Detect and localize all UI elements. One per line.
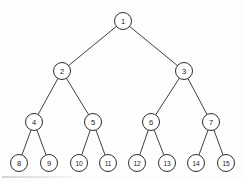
- node-circle-6[interactable]: [143, 114, 160, 131]
- node-circle-9[interactable]: [41, 155, 58, 172]
- node-circle-3[interactable]: [176, 63, 193, 80]
- node-circle-11[interactable]: [100, 155, 117, 172]
- tree-node-3[interactable]: 3: [176, 63, 193, 80]
- tree-edge: [140, 130, 149, 155]
- node-circle-7[interactable]: [203, 114, 220, 131]
- tree-edge: [214, 130, 223, 155]
- node-circle-14[interactable]: [188, 155, 205, 172]
- tree-edge: [96, 130, 105, 155]
- node-circle-8[interactable]: [11, 155, 28, 172]
- node-circle-2[interactable]: [54, 63, 71, 80]
- node-circle-12[interactable]: [129, 155, 146, 172]
- tree-edge: [82, 130, 91, 155]
- node-circle-1[interactable]: [115, 13, 132, 30]
- tree-edges-group: [22, 26, 223, 155]
- tree-edge: [66, 78, 88, 114]
- tree-node-10[interactable]: 10: [71, 155, 88, 172]
- tree-node-14[interactable]: 14: [188, 155, 205, 172]
- tree-node-7[interactable]: 7: [203, 114, 220, 131]
- binary-tree-figure: 123456789101112131415: [0, 0, 244, 181]
- tree-edge: [130, 26, 178, 65]
- tree-edge: [156, 78, 180, 115]
- tree-node-9[interactable]: 9: [41, 155, 58, 172]
- tree-edge: [37, 130, 46, 155]
- tree-node-4[interactable]: 4: [26, 114, 43, 131]
- tree-edge: [38, 78, 58, 114]
- tree-edge: [22, 130, 31, 155]
- tree-edge: [199, 130, 208, 155]
- tree-node-6[interactable]: 6: [143, 114, 160, 131]
- tree-edge: [154, 130, 164, 155]
- tree-nodes-group: 123456789101112131415: [11, 13, 235, 172]
- tree-node-13[interactable]: 13: [159, 155, 176, 172]
- tree-graph-canvas: 123456789101112131415: [0, 0, 244, 181]
- scan-artifact-line: [2, 176, 72, 178]
- node-circle-13[interactable]: [159, 155, 176, 172]
- tree-node-11[interactable]: 11: [100, 155, 117, 172]
- tree-node-2[interactable]: 2: [54, 63, 71, 80]
- node-circle-5[interactable]: [85, 114, 102, 131]
- tree-node-1[interactable]: 1: [115, 13, 132, 30]
- tree-edge: [188, 79, 207, 115]
- tree-node-8[interactable]: 8: [11, 155, 28, 172]
- node-circle-15[interactable]: [218, 155, 235, 172]
- tree-edge: [69, 26, 117, 65]
- tree-node-5[interactable]: 5: [85, 114, 102, 131]
- node-circle-4[interactable]: [26, 114, 43, 131]
- tree-node-12[interactable]: 12: [129, 155, 146, 172]
- tree-node-15[interactable]: 15: [218, 155, 235, 172]
- node-circle-10[interactable]: [71, 155, 88, 172]
